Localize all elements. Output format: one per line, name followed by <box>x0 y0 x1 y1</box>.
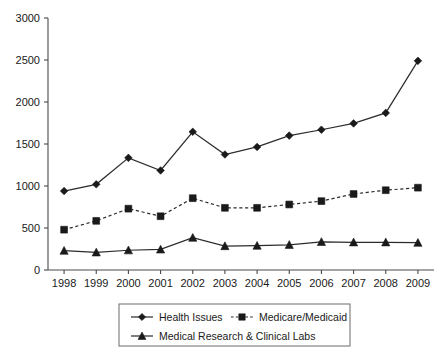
data-point-marker <box>93 217 100 224</box>
series-layer <box>60 57 422 256</box>
x-tick-label: 2001 <box>148 277 172 289</box>
data-point-marker <box>285 132 293 140</box>
x-tick-label: 2007 <box>341 277 365 289</box>
legend-marker-sample <box>239 314 245 320</box>
data-point-marker <box>254 204 261 211</box>
data-point-marker <box>221 151 229 159</box>
x-tick-label: 2002 <box>181 277 205 289</box>
legend-label: Health Issues <box>159 311 223 323</box>
x-tick-label: 2003 <box>213 277 237 289</box>
data-point-marker <box>189 233 197 241</box>
legend-label: Medicare/Medicaid <box>259 311 347 323</box>
x-tick-label: 2008 <box>374 277 398 289</box>
y-tick-label: 1000 <box>16 180 40 192</box>
data-point-marker <box>125 205 132 212</box>
y-tick-label: 500 <box>22 222 40 234</box>
x-tick-label: 2006 <box>309 277 333 289</box>
data-point-marker <box>286 201 293 208</box>
data-point-marker <box>415 184 422 191</box>
data-point-marker <box>350 191 357 198</box>
series-2 <box>61 184 422 233</box>
y-tick-label: 3000 <box>16 12 40 24</box>
series-1 <box>60 57 421 195</box>
line-chart: 050010001500200025003000 199819992000200… <box>0 0 445 353</box>
data-point-marker <box>222 204 229 211</box>
data-point-marker <box>414 57 422 65</box>
chart-legend: Health IssuesMedicare/MedicaidMedical Re… <box>119 304 350 346</box>
x-tick-label: 1998 <box>52 277 76 289</box>
data-point-marker <box>318 126 326 134</box>
y-tick-label: 1500 <box>16 138 40 150</box>
data-point-marker <box>60 187 68 195</box>
x-axis: 1998199920002001200220032004200520062007… <box>48 270 434 289</box>
data-point-marker <box>61 226 68 233</box>
y-tick-label: 2500 <box>16 54 40 66</box>
series-3 <box>60 233 422 256</box>
data-point-marker <box>189 195 196 202</box>
x-tick-label: 1999 <box>84 277 108 289</box>
x-tick-label: 2000 <box>116 277 140 289</box>
x-tick-label: 2004 <box>245 277 269 289</box>
legend-item[interactable]: Medical Research & Clinical Labs <box>131 330 315 342</box>
y-tick-label: 2000 <box>16 96 40 108</box>
x-tick-label: 2005 <box>277 277 301 289</box>
legend-label: Medical Research & Clinical Labs <box>159 330 315 342</box>
chart-container: 050010001500200025003000 199819992000200… <box>0 0 445 353</box>
data-point-marker <box>253 143 261 151</box>
data-point-marker <box>350 120 358 128</box>
y-tick-label: 0 <box>34 264 40 276</box>
data-point-marker <box>382 109 390 117</box>
series-line <box>64 188 418 230</box>
data-point-marker <box>382 187 389 194</box>
y-axis: 050010001500200025003000 <box>16 12 48 276</box>
data-point-marker <box>318 198 325 205</box>
series-line <box>64 238 418 253</box>
x-tick-label: 2009 <box>406 277 430 289</box>
series-line <box>64 61 418 191</box>
data-point-marker <box>157 213 164 220</box>
